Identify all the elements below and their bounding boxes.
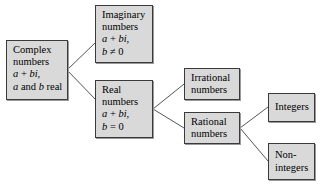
number-classification-diagram: Complex numbers a + bi, a and b real Ima… <box>0 0 323 192</box>
edge-complex-to-real <box>67 70 95 99</box>
edge-real-to-irrational <box>153 84 184 109</box>
node-real-numbers[interactable]: Real numbers a + bi, b = 0 <box>95 80 153 138</box>
real-line-1: Real <box>102 84 147 96</box>
complex-line-1: Complex <box>13 44 62 56</box>
nonintegers-line-1: Non- <box>275 149 309 161</box>
node-rational-numbers[interactable]: Rational numbers <box>184 112 240 144</box>
imaginary-var-bi: bi <box>118 33 126 44</box>
complex-real-word: real <box>44 81 62 92</box>
node-complex-numbers[interactable]: Complex numbers a + bi, a and b real <box>6 40 68 100</box>
complex-var-bi: bi <box>29 68 37 79</box>
integers-line-1: Integers <box>275 101 309 113</box>
real-line-2: numbers <box>102 96 147 108</box>
rational-line-1: Rational <box>191 116 234 128</box>
real-line-4: b = 0 <box>102 121 147 133</box>
complex-line-4: a and b real <box>13 81 62 93</box>
irrational-line-2: numbers <box>191 84 234 96</box>
real-comma: , <box>127 108 130 119</box>
complex-line-2: numbers <box>13 56 62 68</box>
imaginary-line-2: numbers <box>102 21 147 33</box>
complex-comma: , <box>38 68 41 79</box>
complex-plus: + <box>18 68 29 79</box>
nonintegers-line-2: integers <box>275 162 309 174</box>
real-var-bi: bi <box>118 108 126 119</box>
complex-and: and <box>18 81 38 92</box>
node-imaginary-numbers[interactable]: Imaginary numbers a + bi, b ≠ 0 <box>95 5 153 63</box>
irrational-line-1: Irrational <box>191 72 234 84</box>
edge-rational-to-nonintegers <box>240 128 268 161</box>
imaginary-line-4: b ≠ 0 <box>102 46 147 58</box>
edge-real-to-rational <box>153 109 184 128</box>
node-non-integers[interactable]: Non- integers <box>268 143 315 180</box>
node-irrational-numbers[interactable]: Irrational numbers <box>184 68 240 100</box>
rational-line-2: numbers <box>191 128 234 140</box>
node-integers[interactable]: Integers <box>268 93 315 122</box>
real-plus: + <box>107 108 118 119</box>
edge-complex-to-imaginary <box>67 43 95 70</box>
imaginary-comma: , <box>127 33 130 44</box>
imaginary-plus: + <box>107 33 118 44</box>
real-line-3: a + bi, <box>102 108 147 120</box>
real-cond-rel: = 0 <box>107 121 123 132</box>
complex-line-3: a + bi, <box>13 68 62 80</box>
imaginary-line-1: Imaginary <box>102 9 147 21</box>
edge-rational-to-integers <box>240 107 268 128</box>
imaginary-cond-rel: ≠ 0 <box>107 46 123 57</box>
imaginary-line-3: a + bi, <box>102 33 147 45</box>
